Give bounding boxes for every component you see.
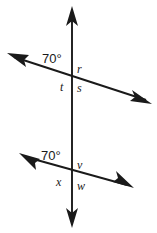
label-t: t bbox=[60, 80, 64, 94]
lower-angle-label: 70° bbox=[41, 148, 61, 163]
arrow-upper-right-icon bbox=[130, 90, 152, 104]
label-w: w bbox=[77, 179, 85, 193]
label-x: x bbox=[55, 175, 62, 189]
label-v: v bbox=[77, 158, 83, 172]
arrow-lower-left-icon bbox=[19, 153, 40, 170]
geometry-diagram: 70° r t s 70° v x w bbox=[0, 0, 157, 233]
label-s: s bbox=[77, 81, 82, 95]
upper-angle-label: 70° bbox=[42, 51, 62, 66]
arrow-lower-right-icon bbox=[113, 171, 134, 188]
label-r: r bbox=[77, 62, 82, 76]
diagram-canvas: 70° r t s 70° v x w bbox=[0, 0, 157, 233]
